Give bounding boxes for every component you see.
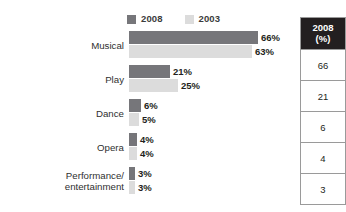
category-label-musical: Musical	[0, 40, 124, 51]
chart-legend: 2008 2003	[127, 12, 220, 26]
bar-musical-2008: 66%	[129, 31, 280, 44]
category-label-dance: Dance	[0, 108, 124, 119]
bar-fill	[129, 45, 252, 58]
table-row: 66	[301, 49, 345, 80]
summary-table: 2008 (%) 66 21 6 4 3	[300, 17, 346, 205]
bar-performance-2003: 3%	[129, 181, 152, 194]
bar-fill	[129, 31, 258, 44]
bar-fill	[129, 167, 135, 180]
bar-play-2008: 21%	[129, 65, 192, 78]
bar-value-label: 25%	[181, 81, 200, 91]
bar-group-dance: Dance 6% 5%	[0, 99, 292, 127]
table-header-2008-percent: 2008 (%)	[301, 18, 345, 49]
bars-musical: 66% 63%	[129, 31, 292, 59]
bar-dance-2008: 6%	[129, 99, 158, 112]
bar-fill	[129, 133, 137, 146]
table-row: 3	[301, 173, 345, 204]
category-label-performance-entertainment: Performance/ entertainment	[0, 170, 124, 192]
category-label-opera: Opera	[0, 142, 124, 153]
bars-opera: 4% 4%	[129, 133, 292, 161]
table-header-year: 2008	[312, 22, 333, 33]
bar-value-label: 4%	[140, 149, 154, 159]
legend-label-2003: 2003	[199, 14, 221, 24]
chart-plot-area: Musical 66% 63% Play 21%	[0, 31, 292, 209]
bars-performance-entertainment: 3% 3%	[129, 167, 292, 195]
bars-play: 21% 25%	[129, 65, 292, 93]
bar-value-label: 3%	[138, 169, 152, 179]
bar-value-label: 6%	[144, 101, 158, 111]
legend-entry-2008: 2008	[127, 14, 163, 24]
table-row: 4	[301, 142, 345, 173]
bar-chart-panel: 2008 2003 Musical 66% 63%	[0, 0, 292, 212]
bar-opera-2003: 4%	[129, 147, 154, 160]
bar-fill	[129, 113, 139, 126]
bar-dance-2003: 5%	[129, 113, 156, 126]
bar-value-label: 21%	[173, 67, 192, 77]
bar-play-2003: 25%	[129, 79, 200, 92]
table-row: 21	[301, 80, 345, 111]
bar-value-label: 66%	[261, 33, 280, 43]
legend-entry-2003: 2003	[185, 14, 221, 24]
bar-value-label: 63%	[255, 47, 274, 57]
bar-value-label: 4%	[140, 135, 154, 145]
legend-swatch-2008-icon	[127, 15, 136, 24]
bar-group-musical: Musical 66% 63%	[0, 31, 292, 59]
bar-group-performance-entertainment: Performance/ entertainment 3% 3%	[0, 167, 292, 195]
category-label-play: Play	[0, 74, 124, 85]
bar-fill	[129, 99, 141, 112]
bar-value-label: 3%	[138, 183, 152, 193]
bar-fill	[129, 181, 135, 194]
bars-dance: 6% 5%	[129, 99, 292, 127]
bar-fill	[129, 147, 137, 160]
table-header-unit: (%)	[301, 33, 345, 44]
bar-fill	[129, 65, 170, 78]
legend-swatch-2003-icon	[185, 15, 194, 24]
bar-group-opera: Opera 4% 4%	[0, 133, 292, 161]
bar-group-play: Play 21% 25%	[0, 65, 292, 93]
bar-musical-2003: 63%	[129, 45, 274, 58]
table-row: 6	[301, 111, 345, 142]
bar-opera-2008: 4%	[129, 133, 154, 146]
bar-value-label: 5%	[142, 115, 156, 125]
legend-label-2008: 2008	[141, 14, 163, 24]
bar-fill	[129, 79, 178, 92]
bar-performance-2008: 3%	[129, 167, 152, 180]
